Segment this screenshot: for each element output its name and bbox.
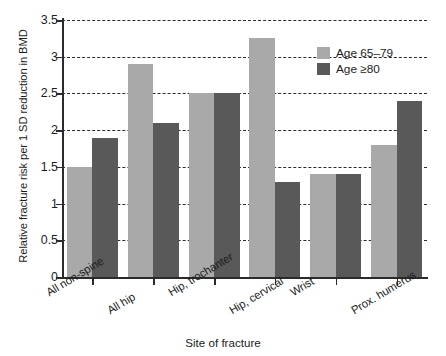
legend-item-label: Age ≥80 bbox=[336, 62, 380, 76]
x-axis-tick-mark bbox=[153, 278, 155, 285]
legend-item-label: Age 65–79 bbox=[336, 46, 393, 60]
y-axis-tick-label: 1.5 bbox=[18, 160, 58, 174]
y-axis-tick-label: 3.5 bbox=[18, 13, 58, 27]
bar-chart-figure: Relative fracture risk per 1 SD reductio… bbox=[0, 0, 446, 356]
legend-swatch-icon bbox=[317, 47, 330, 59]
x-axis-tick-mark bbox=[92, 278, 94, 285]
bar bbox=[128, 64, 154, 277]
y-axis-tick-mark bbox=[56, 204, 63, 206]
x-axis-line bbox=[61, 277, 428, 279]
x-axis-tick-label: All hip bbox=[105, 290, 137, 316]
bar bbox=[275, 182, 301, 277]
bar bbox=[371, 145, 397, 277]
y-axis-tick-label: 2 bbox=[18, 123, 58, 137]
y-axis-tick-mark bbox=[56, 130, 63, 132]
y-axis-tick-label: 3 bbox=[18, 50, 58, 64]
bar bbox=[310, 174, 336, 277]
y-axis-tick-mark bbox=[56, 20, 63, 22]
bar bbox=[214, 93, 240, 277]
legend-item: Age 65–79 bbox=[317, 45, 393, 60]
y-axis-tick-mark bbox=[56, 167, 63, 169]
gridline bbox=[62, 93, 427, 94]
legend-item: Age ≥80 bbox=[317, 61, 393, 76]
gridline bbox=[62, 130, 427, 131]
x-axis-tick-label: Hip, cervical bbox=[227, 275, 285, 317]
y-axis-tick-mark bbox=[56, 93, 63, 95]
bar bbox=[336, 174, 362, 277]
y-axis-tick-mark bbox=[56, 57, 63, 59]
y-axis-tick-label: 1 bbox=[18, 197, 58, 211]
bar bbox=[153, 123, 179, 277]
bar bbox=[397, 101, 423, 277]
legend-swatch-icon bbox=[317, 63, 330, 75]
bar bbox=[189, 93, 215, 277]
x-axis-title: Site of fracture bbox=[0, 336, 446, 349]
y-axis-tick-label: 2.5 bbox=[18, 86, 58, 100]
gridline bbox=[62, 20, 427, 21]
bar bbox=[249, 38, 275, 277]
chart-legend: Age 65–79 Age ≥80 bbox=[317, 45, 393, 77]
x-axis-tick-mark bbox=[336, 278, 338, 285]
y-axis-tick-label: 0.5 bbox=[18, 233, 58, 247]
y-axis-tick-mark bbox=[56, 240, 63, 242]
x-axis-tick-mark bbox=[214, 278, 216, 285]
y-axis-tick-labels: 00.511.522.533.5 bbox=[18, 0, 58, 356]
